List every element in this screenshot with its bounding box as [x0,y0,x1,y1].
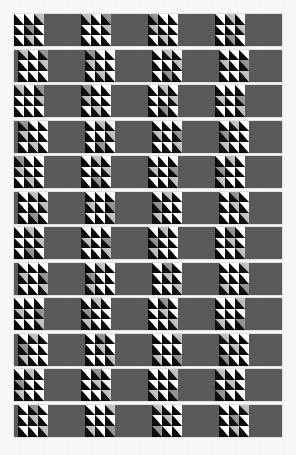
half-square-triangle-cell [172,60,182,71]
half-square-triangle-cell [219,71,229,82]
half-square-triangle-cell [14,96,24,107]
triangle-motif-block [85,192,115,224]
plain-square-block [178,156,215,188]
half-square-triangle-cell [225,319,235,330]
half-square-triangle-cell [158,390,168,401]
half-square-triangle-cell [38,131,48,142]
half-square-triangle-cell [101,238,111,249]
half-square-triangle-cell [158,248,168,259]
plain-square-block [178,227,215,259]
pattern-band [14,121,282,153]
half-square-triangle-cell [235,35,245,46]
half-square-triangle-cell [34,390,44,401]
half-square-triangle-cell [239,334,249,345]
half-square-triangle-cell [219,284,229,295]
half-square-triangle-cell [24,96,34,107]
half-square-triangle-cell [162,355,172,366]
half-square-triangle-cell [239,131,249,142]
plain-square-block [115,50,152,82]
triangle-motif-block [215,85,245,117]
plain-square-block [249,50,282,82]
half-square-triangle-cell [85,192,95,203]
band-block-row [14,298,282,330]
half-square-triangle-cell [172,192,182,203]
plain-square-block [178,85,215,117]
half-square-triangle-cell [95,71,105,82]
half-square-triangle-cell [91,85,101,96]
half-square-triangle-cell [168,309,178,320]
half-square-triangle-cell [148,380,158,391]
half-square-triangle-cell [28,355,38,366]
half-square-triangle-cell [162,263,172,274]
pattern-sheet [0,0,296,455]
plain-square-block [111,14,148,46]
half-square-triangle-cell [158,238,168,249]
half-square-triangle-cell [168,106,178,117]
half-square-triangle-cell [152,405,162,416]
half-square-triangle-cell [148,14,158,25]
triangle-motif-block [152,334,182,366]
half-square-triangle-cell [148,309,158,320]
triangle-motif-block [152,121,182,153]
triangle-motif-block [14,14,44,46]
half-square-triangle-cell [148,369,158,380]
half-square-triangle-cell [235,156,245,167]
half-square-triangle-cell [219,50,229,61]
half-square-triangle-cell [225,106,235,117]
band-block-row [14,14,282,46]
half-square-triangle-cell [168,248,178,259]
half-square-triangle-cell [101,298,111,309]
half-square-triangle-cell [235,238,245,249]
half-square-triangle-cell [225,25,235,36]
triangle-motif-block [148,227,178,259]
plain-square-block [111,85,148,117]
half-square-triangle-cell [162,405,172,416]
plain-square-block [48,121,85,153]
half-square-triangle-cell [34,85,44,96]
half-square-triangle-cell [172,121,182,132]
half-square-triangle-cell [18,213,28,224]
half-square-triangle-cell [158,380,168,391]
half-square-triangle-cell [235,369,245,380]
half-square-triangle-cell [168,14,178,25]
half-square-triangle-cell [81,390,91,401]
half-square-triangle-cell [24,309,34,320]
half-square-triangle-cell [225,309,235,320]
half-square-triangle-cell [81,238,91,249]
half-square-triangle-cell [225,298,235,309]
half-square-triangle-cell [158,106,168,117]
half-square-triangle-cell [219,192,229,203]
half-square-triangle-cell [34,156,44,167]
half-square-triangle-cell [229,426,239,437]
half-square-triangle-cell [34,319,44,330]
triangle-motif-block [215,156,245,188]
half-square-triangle-cell [229,273,239,284]
half-square-triangle-cell [105,213,115,224]
half-square-triangle-cell [14,167,24,178]
plain-square-block [182,192,219,224]
half-square-triangle-cell [229,192,239,203]
half-square-triangle-cell [18,71,28,82]
half-square-triangle-cell [162,202,172,213]
half-square-triangle-cell [239,71,249,82]
half-square-triangle-cell [91,156,101,167]
triangle-motif-block [148,85,178,117]
pattern-band [14,263,282,295]
half-square-triangle-cell [215,106,225,117]
half-square-triangle-cell [148,248,158,259]
half-square-triangle-cell [158,25,168,36]
plain-square-block [178,14,215,46]
half-square-triangle-cell [91,227,101,238]
half-square-triangle-cell [24,238,34,249]
triangle-motif-block [215,14,245,46]
half-square-triangle-cell [235,106,245,117]
half-square-triangle-cell [101,85,111,96]
half-square-triangle-cell [158,369,168,380]
half-square-triangle-cell [168,390,178,401]
half-square-triangle-cell [162,284,172,295]
half-square-triangle-cell [229,131,239,142]
half-square-triangle-cell [148,35,158,46]
half-square-triangle-cell [148,177,158,188]
half-square-triangle-cell [95,405,105,416]
half-square-triangle-cell [152,50,162,61]
